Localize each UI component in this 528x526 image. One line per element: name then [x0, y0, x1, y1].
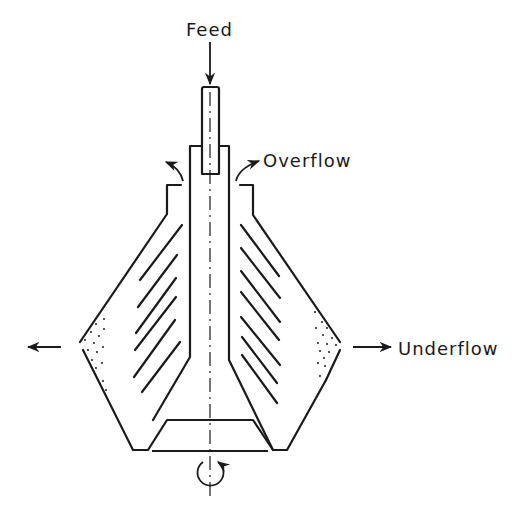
right-disc-stack: [241, 225, 280, 403]
overflow-right-arrow-icon: [236, 161, 259, 181]
bowl-left-lower-wall: [83, 350, 273, 450]
centrifuge-diagram: Feed Overflow Underflow: [0, 0, 528, 526]
underflow-label: Underflow: [398, 338, 499, 359]
bowl-right-upper-wall: [240, 185, 340, 342]
central-tube-left-wall: [153, 146, 202, 420]
left-solids-dots: [84, 318, 107, 391]
bowl-left-upper-wall: [80, 185, 181, 342]
overflow-left-arrow-icon: [166, 162, 183, 181]
bowl-right-lower-wall: [326, 350, 340, 380]
overflow-label: Overflow: [263, 150, 351, 171]
feed-label: Feed: [186, 19, 233, 40]
